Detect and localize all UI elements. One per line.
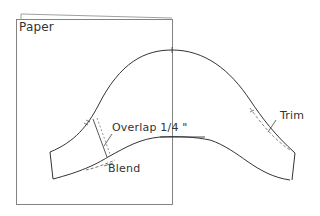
overlap-label: Overlap 1/4 "	[112, 122, 188, 133]
blend-label: Blend	[108, 163, 140, 174]
paper-label: Paper	[19, 21, 54, 33]
pattern-right-edge	[292, 153, 295, 180]
trim-label: Trim	[280, 110, 304, 121]
pattern-left-edge	[50, 152, 53, 179]
back-paper-sheet	[21, 14, 172, 19]
overlap-leader-line	[104, 134, 112, 146]
pattern-inner-curve	[53, 137, 290, 180]
seam-line	[93, 119, 107, 157]
